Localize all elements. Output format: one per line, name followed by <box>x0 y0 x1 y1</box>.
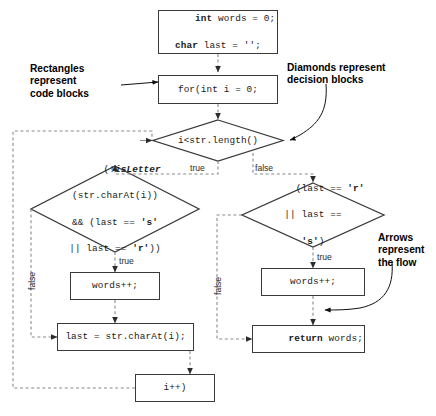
annotation-arrows: Arrows represent the flow <box>378 232 424 269</box>
node-words-increment-left-text: words++; <box>92 279 138 292</box>
leader-diamonds-annotation <box>290 84 326 140</box>
node-increment-i-text: i++) <box>164 381 187 394</box>
return-words-rest: words; <box>323 333 363 344</box>
node-for-loop-text: for(int i = 0; <box>178 83 258 96</box>
node-init-text: int words = 0; char last = ''; <box>161 0 276 65</box>
leader-rectangles-annotation <box>121 82 158 85</box>
diamond-shape-last-check <box>242 183 384 247</box>
flowchart-diagram: int words = 0; char last = ''; for(int i… <box>0 0 436 416</box>
edge-label-letter-true: true <box>119 256 134 266</box>
node-return-words-text: return words; <box>254 319 363 359</box>
edge-label-loop-true: true <box>190 163 205 173</box>
node-assign-last-text: last = str.charAt(i); <box>65 330 185 343</box>
node-init-keyword-char: char <box>175 40 198 51</box>
annotation-diamonds: Diamonds represent decision blocks <box>287 62 386 87</box>
node-init-line1-rest: words = 0; <box>212 13 275 24</box>
edge-label-last-false: false <box>213 277 223 295</box>
diamond-shape-letter-check <box>31 166 199 252</box>
node-increment-i: i++) <box>135 374 215 402</box>
node-init-keyword-int: int <box>195 13 212 24</box>
node-return-words: return words; <box>252 325 365 353</box>
annotation-rectangles: Rectangles represent code blocks <box>30 63 89 100</box>
edge-label-letter-false: false <box>27 272 37 290</box>
edge-label-loop-false: false <box>255 163 273 173</box>
node-words-increment-right-text: words++; <box>290 275 336 288</box>
node-init: int words = 0; char last = ''; <box>158 10 278 54</box>
node-words-increment-left: words++; <box>70 272 160 300</box>
edge-label-last-true: true <box>317 252 332 262</box>
node-words-increment-right: words++; <box>261 268 365 296</box>
node-assign-last: last = str.charAt(i); <box>57 323 194 351</box>
return-keyword: return <box>288 333 322 344</box>
node-init-line2-rest: last = ''; <box>198 40 261 51</box>
node-for-loop: for(int i = 0; <box>158 75 278 104</box>
diamond-shape-loop-condition <box>153 120 283 161</box>
